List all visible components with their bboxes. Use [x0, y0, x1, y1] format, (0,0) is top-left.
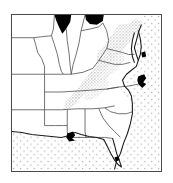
map-frame [11, 14, 162, 172]
distribution-map-figure [0, 0, 173, 183]
map-canvas [12, 15, 161, 171]
